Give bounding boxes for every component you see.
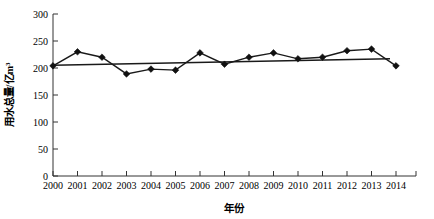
y-tick-label: 150 <box>33 90 48 101</box>
y-tick-label: 300 <box>33 9 48 20</box>
y-tick-label: 50 <box>38 144 48 155</box>
y-axis-ticks <box>53 14 58 176</box>
data-point-marker <box>344 47 351 54</box>
x-tick-label: 2000 <box>43 180 63 191</box>
y-tick-label: 250 <box>33 36 48 47</box>
x-tick-label: 2004 <box>141 180 161 191</box>
x-tick-label: 2011 <box>313 180 333 191</box>
x-tick-label: 2013 <box>362 180 382 191</box>
y-axis-tick-labels: 300 250 200 150 100 50 0 <box>33 9 48 182</box>
y-axis-title: 用水总量/亿m³ <box>3 63 15 129</box>
x-tick-label: 2001 <box>68 180 88 191</box>
x-tick-label: 2008 <box>239 180 259 191</box>
x-axis-title: 年份 <box>224 202 245 214</box>
x-tick-label: 2003 <box>117 180 137 191</box>
x-tick-label: 2014 <box>386 180 406 191</box>
data-point-marker <box>270 50 277 57</box>
x-axis-ticks <box>53 171 416 176</box>
x-tick-label: 2010 <box>288 180 308 191</box>
x-tick-label: 2005 <box>166 180 186 191</box>
y-tick-label: 200 <box>33 63 48 74</box>
x-tick-label: 2007 <box>215 180 235 191</box>
x-axis-tick-labels: 2000 2001 2002 2003 2004 2005 2006 2007 … <box>43 180 406 191</box>
chart-container: 300 250 200 150 100 50 0 <box>0 0 434 219</box>
y-tick-label: 100 <box>33 117 48 128</box>
x-tick-label: 2012 <box>337 180 357 191</box>
x-tick-label: 2002 <box>92 180 112 191</box>
data-point-marker <box>246 54 253 61</box>
data-point-marker <box>148 66 155 73</box>
data-point-marker <box>74 49 81 56</box>
line-chart: 300 250 200 150 100 50 0 <box>0 0 434 219</box>
x-tick-label: 2006 <box>190 180 210 191</box>
data-point-markers <box>50 46 400 77</box>
x-tick-label: 2009 <box>264 180 284 191</box>
